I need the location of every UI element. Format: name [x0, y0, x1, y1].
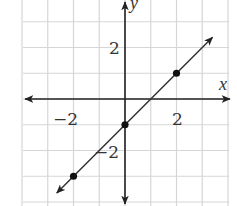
data-point: [121, 121, 128, 128]
y-tick-label-neg-2: −2: [94, 142, 119, 162]
x-axis-label: x: [218, 74, 227, 94]
x-tick-label-neg-2: −2: [53, 109, 78, 129]
y-tick-label-2: 2: [109, 38, 120, 58]
line-y-equals-x-minus-1: [57, 37, 213, 193]
coordinate-plane: x y −2 2 2 −2: [0, 0, 237, 206]
x-tick-label-2: 2: [172, 109, 183, 129]
data-point: [70, 173, 77, 180]
y-axis-label: y: [128, 0, 138, 13]
data-point: [173, 70, 180, 77]
